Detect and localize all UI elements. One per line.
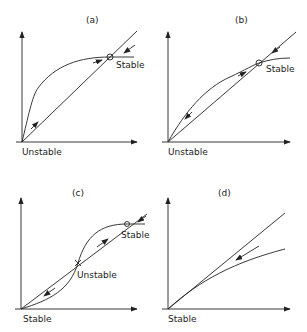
panel-a: (a) Stable Unstable — [16, 15, 145, 157]
arrow-icon — [272, 47, 280, 53]
stability-diagram: (a) Stable Unstable (b) Stable Unstable … — [0, 0, 307, 332]
arrow-icon — [124, 45, 135, 53]
panel-a-title: (a) — [86, 15, 99, 25]
arrow-icon — [185, 112, 192, 119]
label-stable-upper: Stable — [121, 230, 150, 240]
label-unstable-middle: Unstable — [77, 270, 117, 280]
panel-b: (b) Stable Unstable — [162, 15, 296, 157]
curve — [168, 249, 285, 309]
arrow-icon — [93, 60, 102, 63]
label-unstable: Unstable — [168, 147, 208, 157]
arrow-icon — [44, 288, 55, 296]
label-stable-origin: Stable — [23, 314, 52, 324]
unstable-point-icon — [75, 260, 81, 266]
panel-c-title: (c) — [72, 188, 84, 198]
diagonal-line — [168, 32, 296, 142]
arrow-icon — [97, 239, 108, 247]
arrow-icon — [138, 216, 146, 222]
diagonal-line — [21, 214, 147, 309]
panel-c: (c) Stable Unstable Stable — [15, 188, 150, 324]
panel-b-title: (b) — [235, 15, 248, 25]
label-unstable: Unstable — [22, 147, 62, 157]
label-stable: Stable — [266, 64, 295, 74]
panel-d: (d) Stable — [162, 188, 290, 324]
label-stable: Stable — [116, 60, 145, 70]
label-stable: Stable — [168, 314, 197, 324]
panel-d-title: (d) — [218, 188, 231, 198]
